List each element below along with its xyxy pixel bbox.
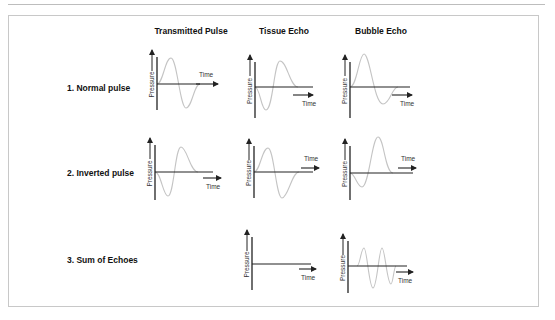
pressure-label: Pressure: [341, 78, 348, 104]
plot-inverted-tissue: PressureTime: [245, 139, 319, 198]
pressure-label: Pressure: [339, 255, 346, 281]
time-label: Time: [400, 100, 415, 107]
time-label: Time: [206, 183, 221, 190]
pressure-label: Pressure: [341, 161, 348, 187]
plot-inverted-transmitted: PressureTime: [146, 138, 221, 200]
plot-sum-tissue: PressureTime: [243, 230, 316, 290]
waveform: [255, 61, 298, 110]
pressure-label: Pressure: [148, 71, 155, 97]
pressure-label: Pressure: [246, 78, 253, 104]
plot-normal-transmitted: PressureTime: [148, 50, 218, 110]
time-label: Time: [199, 71, 214, 78]
pulse-plots: PressureTimePressureTimePressureTimePres…: [0, 0, 555, 320]
plot-normal-tissue: PressureTime: [246, 55, 317, 118]
pressure-label: Pressure: [146, 160, 153, 186]
plot-inverted-bubble: PressureTime: [341, 137, 416, 200]
waveform: [357, 248, 396, 288]
pressure-label: Pressure: [245, 160, 252, 186]
plot-normal-bubble: PressureTime: [341, 54, 415, 118]
time-label: Time: [398, 277, 413, 284]
waveform: [254, 148, 299, 198]
pressure-label: Pressure: [243, 251, 250, 277]
time-label: Time: [302, 100, 317, 107]
time-label: Time: [401, 155, 416, 162]
waveform: [350, 54, 398, 104]
waveform: [157, 58, 200, 108]
time-label: Time: [301, 274, 316, 281]
time-label: Time: [304, 155, 319, 162]
plot-sum-bubble: PressureTime: [339, 234, 413, 293]
waveform: [350, 137, 393, 187]
